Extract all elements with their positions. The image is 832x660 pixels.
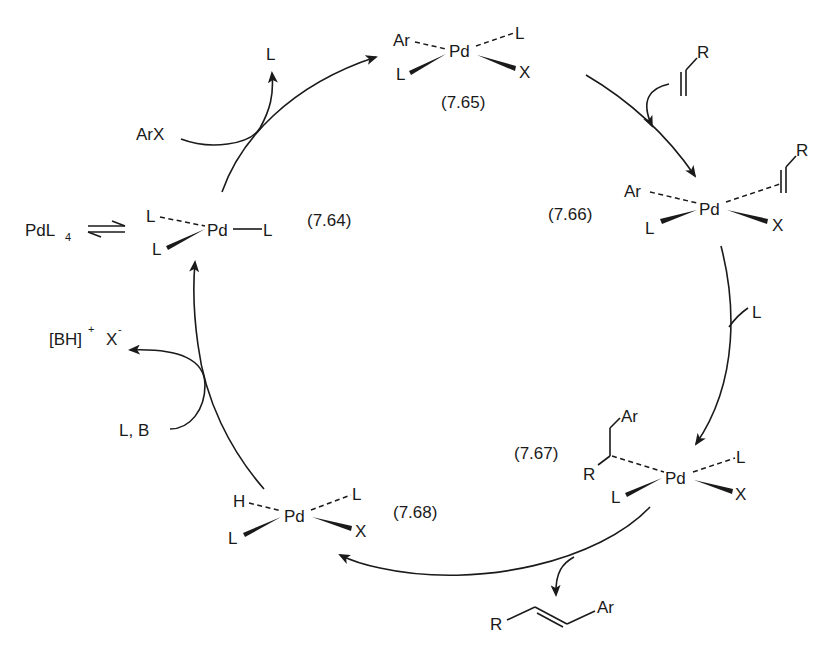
l-release-branch (729, 308, 748, 327)
pd-center: Pd (449, 42, 470, 61)
arrow-beta-hydride-elimination (340, 507, 650, 575)
arrow-product-release (556, 557, 574, 595)
minus-charge: - (118, 323, 122, 335)
dashed-bond (693, 458, 735, 472)
salt-byproduct: [BH] + X - (49, 323, 122, 349)
wedge-bond (477, 55, 516, 71)
complex-label-7-67: (7.67) (514, 444, 558, 463)
complex-7-67: Ar R Pd L L X (7.67) (514, 407, 746, 507)
bh-cation: [BH] (49, 330, 82, 349)
arrow-oxidative-addition (222, 57, 376, 192)
ligand-ar: Ar (393, 31, 410, 50)
ligand-l-wedge: L (228, 529, 237, 548)
arx-reagent: ArX (136, 125, 164, 144)
ligand-ar: Ar (624, 182, 641, 201)
wedge-bond (312, 517, 352, 531)
l-released-top: L (266, 45, 275, 64)
alkyl-r: R (583, 465, 595, 484)
plus-charge: + (88, 323, 94, 335)
x-anion: X (106, 330, 117, 349)
dashed-bond (249, 503, 282, 511)
wedge-bond (727, 210, 768, 224)
alkyl-group: Ar R (583, 407, 638, 484)
wedge-bond (243, 517, 281, 537)
complex-7-66: Ar Pd R L X (7.66) (548, 141, 808, 238)
incoming-alkene: R (681, 43, 709, 96)
arrow-alkene-in (647, 84, 669, 126)
product-r: R (490, 615, 502, 634)
complex-label-7-64: (7.64) (307, 211, 351, 230)
complex-7-68: H Pd L L X (7.68) (228, 485, 437, 548)
base-reagent: L, B (119, 421, 149, 440)
pd-center: Pd (665, 469, 686, 488)
complex-label-7-66: (7.66) (548, 205, 592, 224)
arrow-base-in-salt-out (130, 350, 205, 429)
coordinated-alkene: R (781, 141, 808, 193)
alkene-substituent-r: R (796, 141, 808, 160)
pd-center: Pd (699, 200, 720, 219)
dashed-bond (726, 184, 780, 202)
arrow-migratory-insertion (696, 246, 731, 444)
pd-center: Pd (284, 507, 305, 526)
wedge-bond (409, 54, 446, 75)
wedge-bond (660, 210, 697, 224)
equilibrium-arrows-icon (88, 221, 125, 237)
complex-label-7-65: (7.65) (441, 93, 485, 112)
heck-catalytic-cycle-diagram: PdL 4 L Pd L L (7.64) Ar Pd L L X (7.65)… (0, 0, 832, 660)
wedge-bond (625, 478, 662, 497)
ligand-h: H (233, 492, 245, 511)
pdl4-label: PdL (25, 221, 55, 240)
arrow-arx-in-l-out (181, 73, 273, 145)
complex-7-65: Ar Pd L L X (7.65) (393, 24, 530, 112)
ligand-l-wedge: L (611, 488, 620, 507)
dashed-bond (650, 192, 697, 203)
dashed-bond (311, 495, 351, 510)
wedge-bond (166, 229, 205, 250)
ligand-l-dashed: L (736, 448, 745, 467)
ligand-l-wedge: L (396, 65, 405, 84)
ligand-x: X (355, 522, 366, 541)
alkyl-ar: Ar (621, 407, 638, 426)
dashed-bond (476, 33, 514, 46)
ligand-l-dashed: L (515, 24, 524, 43)
alkene-substituent-r: R (697, 43, 709, 62)
cycle-canvas: PdL 4 L Pd L L (7.64) Ar Pd L L X (7.65)… (0, 0, 832, 660)
pd-center: Pd (207, 221, 228, 240)
pdl4-subscript: 4 (65, 231, 71, 243)
ligand-l-dashed: L (352, 485, 361, 504)
dashed-bond (160, 217, 205, 226)
ligand-l-wedge: L (645, 219, 654, 238)
precatalyst-pdl4: PdL 4 (25, 221, 71, 243)
wedge-bond (694, 480, 733, 494)
ligand-x: X (735, 485, 746, 504)
dashed-bond (612, 456, 664, 472)
ligand-x: X (519, 63, 530, 82)
dashed-bond (415, 42, 446, 49)
l-released-right: L (752, 303, 761, 322)
ligand-l-plain: L (263, 221, 272, 240)
ligand-x: X (772, 216, 783, 235)
ligand-l-wedge: L (152, 240, 161, 259)
arrow-alkene-coordination (586, 75, 695, 176)
ligand-l-dashed: L (146, 207, 155, 226)
product-ar: Ar (597, 598, 614, 617)
complex-label-7-68: (7.68) (393, 503, 437, 522)
complex-7-64: L Pd L L (7.64) (146, 207, 351, 259)
alkene-product: R Ar (490, 598, 614, 634)
